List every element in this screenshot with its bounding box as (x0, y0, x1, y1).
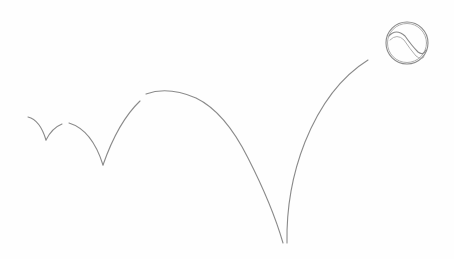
ball-seam-inner (390, 37, 424, 59)
trajectory (28, 60, 368, 243)
trajectory-arc-2 (46, 124, 62, 140)
bouncing-ball-sketch (0, 0, 454, 259)
sketch-canvas: Pencil sketch of a tennis ball bouncing,… (0, 0, 454, 259)
trajectory-arc-3 (69, 123, 103, 165)
tennis-ball (386, 22, 428, 64)
ball-outline (386, 22, 428, 64)
ball-seam-icon (389, 32, 426, 54)
trajectory-arc-6 (287, 60, 368, 243)
trajectory-arc-4 (103, 101, 140, 165)
ball-outline-inner (388, 24, 427, 63)
trajectory-arc-1 (28, 117, 46, 140)
trajectory-arc-5 (146, 91, 283, 243)
